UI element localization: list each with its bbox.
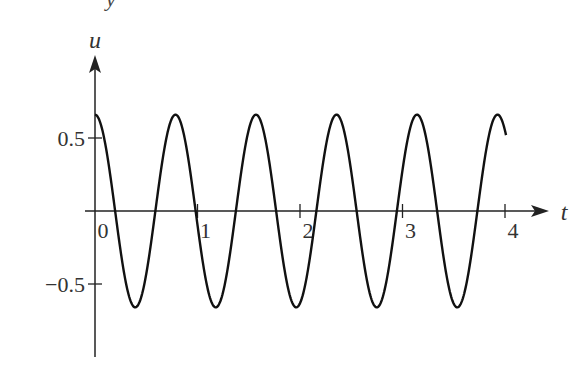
y-tick-label: 0.5 bbox=[58, 126, 86, 151]
x-axis-label: t bbox=[561, 199, 569, 225]
y-tick-label: −0.5 bbox=[45, 272, 85, 297]
x-tick-label: 3 bbox=[405, 218, 416, 243]
x-tick-label: 0 bbox=[98, 218, 109, 243]
x-tick-label: 1 bbox=[200, 218, 211, 243]
y-axis-label: u bbox=[89, 27, 101, 53]
x-tick-label: 4 bbox=[508, 218, 519, 243]
chart: 012340.5−0.5 u t bbox=[0, 0, 586, 385]
